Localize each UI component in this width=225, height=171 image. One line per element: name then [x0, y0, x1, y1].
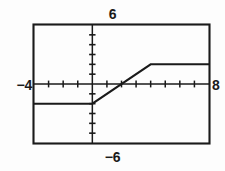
x-axis-min-label: −4	[4, 78, 32, 92]
graph-plot	[0, 0, 225, 171]
x-axis-max-label: 8	[212, 78, 225, 92]
y-axis-max-label: 6	[0, 7, 225, 21]
y-axis-min-label: −6	[0, 150, 225, 164]
graph-screenshot: 6 −6 −4 8	[0, 0, 225, 171]
